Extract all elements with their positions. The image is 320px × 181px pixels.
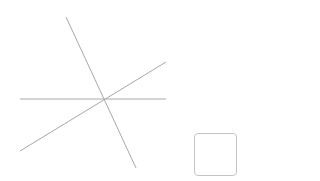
steep-line	[66, 17, 136, 168]
square-button[interactable]	[194, 133, 237, 176]
